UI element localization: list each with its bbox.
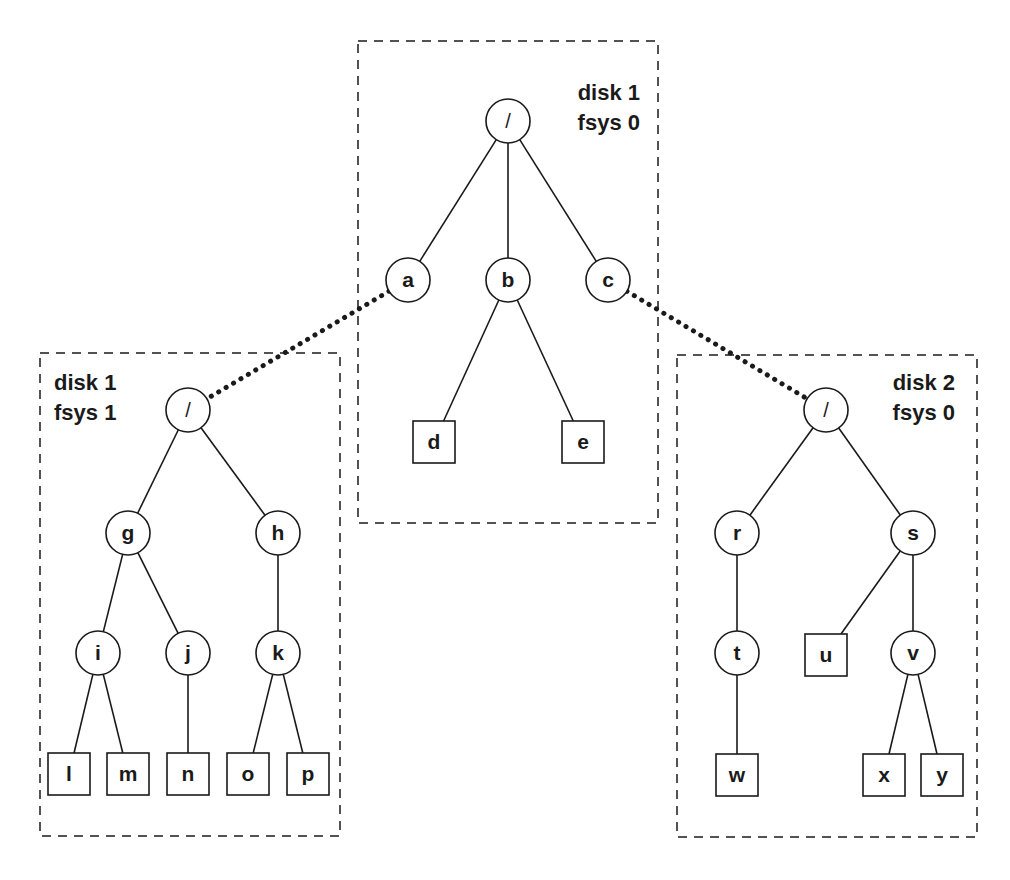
root-directory-node: / — [166, 388, 210, 432]
edge-root0-a — [420, 140, 497, 262]
directory-node-j: j — [166, 631, 210, 675]
node-label: g — [122, 521, 135, 544]
fsys-label: fsys 0 — [578, 110, 640, 135]
node-label: k — [272, 641, 284, 664]
node-label: j — [184, 641, 191, 664]
node-label: v — [907, 641, 919, 664]
node-label: / — [185, 399, 191, 421]
root-directory-node: / — [486, 99, 530, 143]
node-label: o — [242, 762, 255, 785]
file-node-p: p — [287, 753, 329, 795]
fsys-label: fsys 0 — [893, 400, 955, 425]
directory-node-b: b — [486, 258, 530, 302]
node-label: d — [428, 430, 441, 453]
mount-links — [207, 291, 807, 399]
mount-link-a-root1 — [207, 291, 389, 399]
node-label: m — [119, 762, 138, 785]
edge-b-e — [517, 300, 573, 421]
node-label: r — [733, 521, 741, 544]
edge-i-m — [103, 674, 122, 753]
directory-node-a: a — [386, 258, 430, 302]
directory-node-v: v — [891, 631, 935, 675]
node-label: t — [734, 641, 741, 664]
disk-label: disk 1 — [578, 80, 640, 105]
directory-node-i: i — [76, 631, 120, 675]
edge-k-p — [283, 674, 302, 753]
mount-link-c-root2 — [627, 291, 807, 398]
edge-root1-h — [201, 428, 265, 515]
file-node-d: d — [413, 421, 455, 463]
edge-k-o — [253, 674, 272, 753]
file-node-w: w — [716, 754, 758, 796]
edge-root1-g — [138, 430, 179, 513]
directory-node-r: r — [715, 511, 759, 555]
edge-i-l — [74, 674, 93, 753]
directory-node-h: h — [256, 511, 300, 555]
file-node-n: n — [167, 753, 209, 795]
file-node-u: u — [805, 634, 847, 676]
node-label: e — [577, 430, 589, 453]
file-node-y: y — [921, 754, 963, 796]
disk-label: disk 2 — [893, 370, 955, 395]
node-label: / — [823, 399, 829, 421]
file-node-m: m — [107, 753, 149, 795]
edge-s-u — [841, 551, 900, 634]
directory-node-k: k — [256, 631, 300, 675]
edge-root2-r — [750, 428, 813, 515]
edge-root0-c — [520, 140, 597, 262]
node-label: w — [728, 763, 746, 786]
file-node-x: x — [863, 754, 905, 796]
node-label: l — [66, 762, 72, 785]
node-label: n — [182, 762, 195, 785]
file-node-o: o — [227, 753, 269, 795]
edge-g-i — [103, 554, 122, 631]
root-directory-node: / — [804, 388, 848, 432]
fsys-label: fsys 1 — [54, 400, 116, 425]
filesystem-mount-diagram: disk 1fsys 0disk 1fsys 1disk 2fsys 0 /ab… — [0, 0, 1010, 880]
directory-node-t: t — [715, 631, 759, 675]
edge-g-j — [138, 553, 178, 634]
node-label: h — [272, 521, 285, 544]
edge-b-d — [444, 300, 499, 421]
node-label: a — [402, 268, 414, 291]
file-node-l: l — [48, 753, 90, 795]
edge-v-y — [918, 674, 937, 754]
node-label: c — [602, 268, 614, 291]
node-label: y — [936, 763, 948, 786]
edge-root2-s — [839, 428, 901, 515]
edge-v-x — [889, 674, 908, 754]
node-label: x — [878, 763, 890, 786]
directory-node-s: s — [891, 511, 935, 555]
directory-node-g: g — [106, 511, 150, 555]
disk-label: disk 1 — [54, 370, 116, 395]
directory-node-c: c — [586, 258, 630, 302]
node-label: p — [302, 762, 315, 785]
node-label: b — [502, 268, 515, 291]
file-node-e: e — [562, 421, 604, 463]
node-label: u — [820, 643, 833, 666]
node-label: / — [505, 110, 511, 132]
tree-nodes: /abcde/ghijklmnop/rstuvwxy — [48, 99, 963, 796]
node-label: i — [95, 641, 101, 664]
node-label: s — [907, 521, 919, 544]
